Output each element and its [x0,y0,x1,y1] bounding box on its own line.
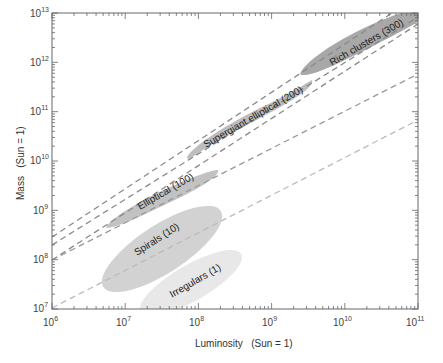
svg-text:1013: 1013 [30,6,49,19]
svg-text:1011: 1011 [406,315,424,328]
svg-text:1011: 1011 [30,104,48,117]
svg-text:107: 107 [33,301,48,314]
svg-text:107: 107 [116,315,131,328]
svg-text:1010: 1010 [333,315,352,328]
y-axis-labels: 107 108 109 1010 1011 1012 1013 [30,6,49,314]
svg-text:1010: 1010 [30,153,49,166]
plot-area [52,8,425,328]
svg-text:109: 109 [262,315,277,328]
svg-text:109: 109 [33,203,48,216]
x-axis-title: Luminosity (Sun = 1) [195,338,293,349]
ref-line-100 [52,24,418,260]
y-axis-title: Mass (Sun = 1) [15,126,26,200]
mass-luminosity-chart: Rich clusters (300) Supergiant elliptica… [0,0,443,363]
x-axis-labels: 106 107 108 109 1010 1011 [43,315,424,328]
svg-text:108: 108 [189,315,204,328]
ref-line-1 [52,120,418,308]
svg-text:106: 106 [43,315,58,328]
ref-line-10 [52,74,418,260]
svg-text:1012: 1012 [30,55,49,68]
svg-text:108: 108 [33,252,48,265]
